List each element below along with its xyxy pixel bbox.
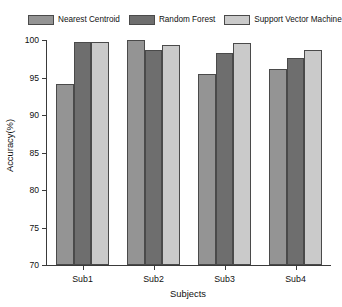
y-axis-tick-label: 90 xyxy=(29,110,39,120)
x-axis-tick xyxy=(225,265,226,270)
legend-label: Support Vector Machine xyxy=(254,15,341,25)
legend-entry[interactable]: Random Forest xyxy=(129,15,215,25)
x-axis-title: Subjects xyxy=(46,288,330,299)
bar xyxy=(198,74,216,265)
bar xyxy=(269,69,287,265)
y-axis-title: Accuracy(%) xyxy=(4,106,15,186)
legend-swatch-icon xyxy=(28,15,54,25)
chart-legend: Nearest CentroidRandom ForestSupport Vec… xyxy=(28,13,338,27)
bar-chart-figure: Nearest CentroidRandom ForestSupport Vec… xyxy=(0,0,342,307)
y-axis-tick xyxy=(42,153,47,154)
y-axis-tick xyxy=(42,228,47,229)
y-axis-tick xyxy=(42,265,47,266)
x-axis-tick xyxy=(296,265,297,270)
bar xyxy=(127,40,145,265)
legend-label: Nearest Centroid xyxy=(58,15,120,25)
bar xyxy=(287,58,305,265)
bar xyxy=(91,42,109,265)
x-axis-tick xyxy=(154,265,155,270)
bar xyxy=(216,53,234,265)
bar xyxy=(304,50,322,265)
bar xyxy=(233,43,251,265)
x-axis-tick xyxy=(83,265,84,270)
bar xyxy=(56,84,74,266)
x-axis-tick-label: Sub3 xyxy=(214,274,235,284)
bar xyxy=(162,45,180,266)
y-axis-tick-label: 75 xyxy=(29,223,39,233)
y-axis-tick-label: 70 xyxy=(29,260,39,270)
bar xyxy=(145,50,163,265)
y-axis-tick xyxy=(42,190,47,191)
x-axis-tick-label: Sub4 xyxy=(285,274,306,284)
y-axis-tick-label: 80 xyxy=(29,185,39,195)
x-axis-tick-label: Sub2 xyxy=(143,274,164,284)
legend-swatch-icon xyxy=(129,15,155,25)
y-axis-tick xyxy=(42,40,47,41)
y-axis-tick-label: 100 xyxy=(25,35,39,45)
plot-area: 707580859095100Sub1Sub2Sub3Sub4 xyxy=(46,40,331,266)
y-axis-tick-label: 85 xyxy=(29,148,39,158)
y-axis-tick-label: 95 xyxy=(29,73,39,83)
legend-swatch-icon xyxy=(224,15,250,25)
legend-label: Random Forest xyxy=(159,15,215,25)
legend-entry[interactable]: Nearest Centroid xyxy=(28,15,120,25)
y-axis-tick xyxy=(42,115,47,116)
bar xyxy=(74,42,92,265)
y-axis-tick xyxy=(42,78,47,79)
legend-entry[interactable]: Support Vector Machine xyxy=(224,15,341,25)
x-axis-tick-label: Sub1 xyxy=(72,274,93,284)
